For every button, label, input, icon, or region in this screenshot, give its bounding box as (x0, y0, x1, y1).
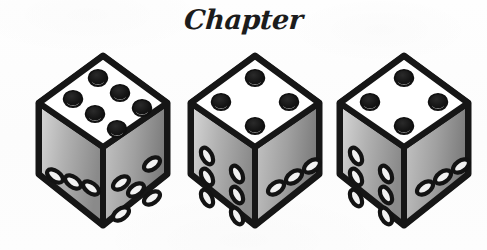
die-2 (180, 48, 330, 233)
die-1 (28, 48, 178, 233)
page-canvas: Chapter (0, 0, 487, 250)
page-title: Chapter (0, 3, 487, 37)
die-3 (329, 48, 479, 233)
